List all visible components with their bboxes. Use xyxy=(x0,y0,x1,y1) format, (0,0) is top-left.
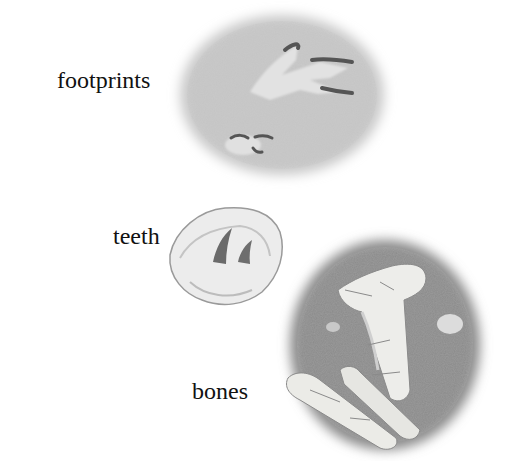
label-teeth: teeth xyxy=(113,224,160,248)
label-footprints: footprints xyxy=(57,68,150,92)
label-bones: bones xyxy=(192,379,248,403)
teeth-fossil-icon xyxy=(170,208,282,305)
bone-fossil-icon xyxy=(287,240,481,450)
footprint-fossil-icon xyxy=(180,15,384,175)
